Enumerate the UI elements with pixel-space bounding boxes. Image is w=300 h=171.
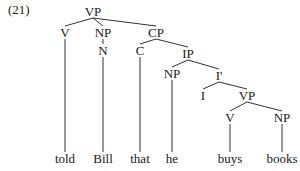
tree-node: V	[225, 110, 235, 125]
tree-node: N	[98, 43, 108, 58]
tree-node: NP	[164, 66, 181, 81]
leaf-word: told	[55, 151, 76, 166]
tree-node: NP	[274, 110, 291, 125]
tree-node: IP	[182, 46, 194, 61]
tree-node: VP	[85, 4, 102, 19]
leaf-word: he	[166, 151, 179, 166]
tree-node: CP	[148, 25, 164, 40]
leaf-word: that	[130, 151, 150, 166]
tree-node: I'	[216, 68, 223, 83]
tree-node: C	[136, 43, 145, 58]
leaf-word: buys	[218, 151, 243, 166]
leaf-word: Bill	[93, 151, 113, 166]
tree-node: V	[60, 25, 70, 40]
tree-node: NP	[95, 25, 112, 40]
leaf-word: books	[266, 151, 297, 166]
tree-edge	[188, 60, 219, 69]
tree-node: VP	[239, 88, 256, 103]
tree-edge	[203, 82, 219, 89]
syntax-tree: VPVNPNCPCIPNPI'IVPVNPtoldBillthathebuysb…	[0, 0, 300, 171]
tree-node: I	[201, 88, 205, 103]
